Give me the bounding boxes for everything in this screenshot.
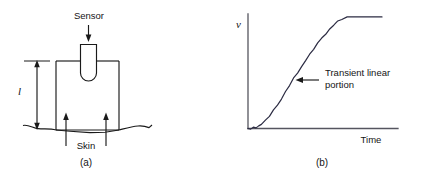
length-label-l: l — [18, 85, 21, 97]
transient-annotation-line1: Transient linear — [325, 67, 390, 78]
panel-a-group: Sensor — [18, 10, 152, 168]
skin-pointer-arrow-left — [63, 113, 69, 147]
sensor-pointer-arrow — [86, 25, 92, 42]
sensor-label: Sensor — [74, 10, 104, 21]
y-axis-label: v — [236, 18, 241, 30]
x-axis-label: Time — [361, 134, 382, 145]
panel-a-caption: (a) — [80, 157, 92, 168]
sensor-probe-shape — [81, 45, 97, 82]
skin-label: Skin — [77, 140, 95, 151]
panel-b-caption: (b) — [316, 157, 328, 168]
skin-surface-line — [23, 125, 152, 130]
panel-b-group: v Time Transient linear portion (b) — [236, 14, 398, 168]
transient-annotation-arrow — [296, 77, 320, 83]
figure-container: Sensor — [0, 0, 428, 177]
transient-annotation-line2: portion — [325, 79, 354, 90]
dimension-arrow-l — [34, 60, 40, 130]
skin-pointer-arrow-right — [103, 113, 109, 147]
figure-svg: Sensor — [0, 0, 428, 177]
